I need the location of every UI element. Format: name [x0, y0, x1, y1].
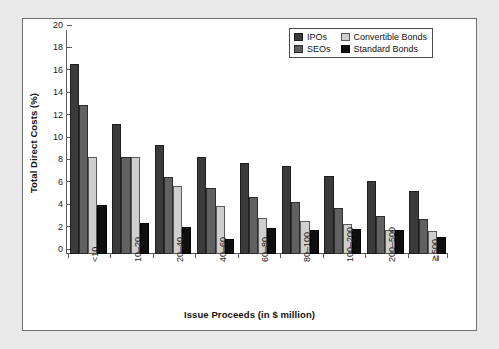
legend-item: IPOs — [294, 32, 331, 42]
y-tick: 6 — [30, 177, 72, 187]
y-tick-mark — [67, 25, 72, 26]
bar — [324, 176, 333, 254]
bar — [291, 202, 300, 254]
x-tick-mark — [195, 254, 196, 258]
y-tick: 4 — [30, 199, 72, 209]
x-tick-mark — [447, 254, 448, 258]
x-tick-mark — [323, 254, 324, 258]
y-tick: 2 — [30, 222, 72, 232]
bar — [164, 177, 173, 254]
bar — [282, 166, 291, 254]
bar-group — [324, 30, 361, 254]
x-tick-label: 40–60 — [218, 237, 228, 262]
bar — [112, 124, 121, 254]
x-tick-mark — [153, 254, 154, 258]
x-tick-label: 10–20 — [133, 237, 143, 262]
y-tick-label: 6 — [37, 177, 63, 187]
y-tick: 16 — [30, 65, 72, 75]
bar — [70, 64, 79, 254]
bar-group — [155, 30, 192, 254]
bar — [419, 219, 428, 254]
bar — [409, 191, 418, 254]
x-tick-label: 80–100 — [302, 232, 312, 262]
y-tick-label: 4 — [37, 199, 63, 209]
y-tick-label: 16 — [37, 65, 63, 75]
bar — [334, 208, 343, 254]
bar-group — [240, 30, 277, 254]
chart-figure: Total Direct Costs (%) Issue Proceeds (i… — [0, 0, 499, 349]
bar — [240, 163, 249, 254]
bar — [88, 157, 97, 254]
y-tick-label: 14 — [37, 87, 63, 97]
x-tick-label: 200–500 — [387, 227, 397, 262]
x-tick-mark — [68, 254, 69, 258]
x-tick-label: 20–40 — [175, 237, 185, 262]
y-tick: 0 — [30, 244, 72, 254]
y-axis-line — [66, 30, 67, 254]
y-tick: 20 — [30, 20, 72, 30]
y-tick: 12 — [30, 110, 72, 120]
legend-label: SEOs — [307, 44, 331, 54]
bar-group — [112, 30, 149, 254]
x-tick-label: 60–80 — [260, 237, 270, 262]
bar — [367, 181, 376, 254]
x-tick-label: <10 — [90, 247, 100, 262]
bar — [155, 145, 164, 254]
bar-group — [197, 30, 234, 254]
legend-swatch-icon — [294, 33, 303, 41]
bar — [121, 157, 130, 254]
bar — [197, 157, 206, 254]
y-tick: 10 — [30, 132, 72, 142]
legend-item: Convertible Bonds — [341, 32, 428, 42]
x-tick-mark — [408, 254, 409, 258]
legend-swatch-icon — [294, 45, 303, 53]
y-tick: 18 — [30, 42, 72, 52]
x-tick-label: ≧500 — [430, 239, 440, 262]
y-tick-label: 10 — [37, 132, 63, 142]
x-tick-mark — [110, 254, 111, 258]
bar — [206, 188, 215, 254]
bar — [249, 197, 258, 254]
y-tick: 8 — [30, 154, 72, 164]
x-tick-mark — [238, 254, 239, 258]
y-tick: 14 — [30, 87, 72, 97]
x-axis-title: Issue Proceeds (in $ million) — [0, 309, 499, 320]
y-tick-label: 20 — [37, 20, 63, 30]
y-tick-label: 8 — [37, 154, 63, 164]
plot-area: 02468101214161820 <1010–2020–4040–6060–8… — [66, 30, 448, 254]
legend-label: Standard Bonds — [354, 44, 419, 54]
y-tick-label: 12 — [37, 110, 63, 120]
x-tick-mark — [280, 254, 281, 258]
x-tick-mark — [365, 254, 366, 258]
y-tick-label: 0 — [37, 244, 63, 254]
bar-group — [409, 30, 446, 254]
x-tick-label: 100–200 — [345, 227, 355, 262]
bar-group — [282, 30, 319, 254]
legend-label: IPOs — [307, 32, 327, 42]
legend-swatch-icon — [341, 33, 350, 41]
chart-legend: IPOsConvertible BondsSEOsStandard Bonds — [289, 28, 433, 58]
bar — [79, 105, 88, 254]
bar-group — [70, 30, 107, 254]
legend-label: Convertible Bonds — [354, 32, 428, 42]
legend-item: Standard Bonds — [341, 44, 428, 54]
bar-group — [367, 30, 404, 254]
legend-swatch-icon — [341, 45, 350, 53]
y-tick-label: 2 — [37, 222, 63, 232]
legend-item: SEOs — [294, 44, 331, 54]
bar — [376, 216, 385, 254]
y-tick-label: 18 — [37, 42, 63, 52]
